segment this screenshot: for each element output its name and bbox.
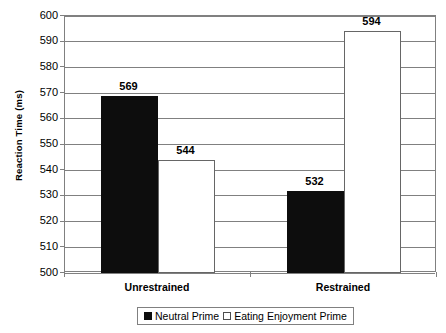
y-axis-title: Reaction Time (ms) bbox=[13, 66, 24, 206]
y-axis-tick-label: 570 bbox=[24, 87, 58, 98]
y-axis-tick-label: 590 bbox=[24, 35, 58, 46]
bar bbox=[158, 160, 215, 273]
bar bbox=[344, 31, 401, 273]
y-axis-tick-label: 550 bbox=[24, 138, 58, 149]
legend: Neutral Prime Eating Enjoyment Prime bbox=[137, 307, 354, 325]
x-axis-category-label: Unrestrained bbox=[77, 281, 237, 293]
bar-chart: Reaction Time (ms) 600590580570560550540… bbox=[0, 0, 446, 333]
x-axis-tick-mark bbox=[250, 272, 251, 277]
y-axis-tick-label: 530 bbox=[24, 189, 58, 200]
bar-value-label: 544 bbox=[156, 145, 216, 156]
legend-swatch-icon-neutral-prime bbox=[144, 312, 152, 320]
legend-item-neutral-prime: Neutral Prime bbox=[144, 311, 219, 322]
bar bbox=[287, 191, 344, 273]
x-axis-tick-mark bbox=[436, 272, 437, 277]
plot-area bbox=[64, 15, 436, 272]
y-axis-tick-label: 580 bbox=[24, 61, 58, 72]
y-axis-tick-label: 510 bbox=[24, 241, 58, 252]
y-axis-tick-label: 600 bbox=[24, 10, 58, 21]
y-axis-tick-label: 560 bbox=[24, 112, 58, 123]
legend-swatch-icon-eating-enjoyment-prime bbox=[223, 312, 231, 320]
legend-label-neutral-prime: Neutral Prime bbox=[155, 311, 219, 322]
y-axis-tick-label: 540 bbox=[24, 164, 58, 175]
x-axis-category-label: Restrained bbox=[263, 281, 423, 293]
legend-item-eating-enjoyment-prime: Eating Enjoyment Prime bbox=[223, 311, 347, 322]
bar-value-label: 594 bbox=[342, 16, 402, 27]
x-axis-tick-mark bbox=[64, 272, 65, 277]
y-axis-tick-label: 520 bbox=[24, 215, 58, 226]
bar-value-label: 532 bbox=[285, 176, 345, 187]
y-axis-tick-label: 500 bbox=[24, 267, 58, 278]
bar bbox=[101, 96, 158, 273]
bar-value-label: 569 bbox=[99, 81, 159, 92]
legend-label-eating-enjoyment-prime: Eating Enjoyment Prime bbox=[234, 311, 347, 322]
